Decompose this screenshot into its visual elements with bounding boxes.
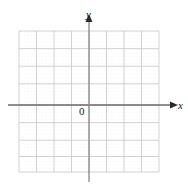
origin-label: 0 [79, 106, 85, 117]
x-axis-label: x [178, 100, 183, 111]
y-axis-label: y [86, 9, 91, 20]
coordinate-grid-svg [0, 0, 188, 190]
x-axis-arrow-icon [170, 102, 178, 109]
coordinate-plane-figure: y x 0 [0, 0, 188, 190]
